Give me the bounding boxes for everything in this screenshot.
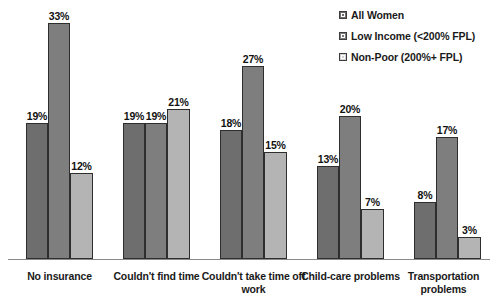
bar-group-bars: 18% 27% 15% — [220, 1, 287, 259]
bar-all-women[interactable] — [414, 202, 436, 259]
bar-non-poor[interactable] — [70, 173, 93, 259]
legend-item-all-women[interactable]: All Women — [339, 6, 494, 23]
bar-value-label: 19% — [27, 110, 47, 122]
bar-group-bars: 19% 33% 12% — [26, 1, 93, 259]
bar-all-women[interactable] — [317, 166, 339, 259]
x-axis-label-transportation-problems: Transportation problems — [391, 270, 496, 296]
bar-slot: 15% — [264, 1, 287, 259]
x-axis-line — [8, 259, 490, 260]
bar-slot: 19% — [123, 1, 145, 259]
legend-swatch-low-income — [339, 32, 347, 40]
chart-legend: All Women Low Income (<200% FPL) Non-Poo… — [339, 6, 494, 69]
bar-low-income[interactable] — [145, 123, 167, 259]
legend-label-low-income: Low Income (<200% FPL) — [351, 30, 475, 42]
bar-non-poor[interactable] — [458, 237, 481, 259]
bar-all-women[interactable] — [220, 130, 242, 259]
x-axis-label-line2: work — [197, 283, 310, 296]
bar-slot: 27% — [242, 1, 264, 259]
legend-swatch-all-women — [339, 11, 347, 19]
bar-value-label: 19% — [146, 110, 166, 122]
bar-group-bars: 19% 19% 21% — [123, 1, 190, 259]
legend-item-low-income[interactable]: Low Income (<200% FPL) — [339, 27, 494, 44]
bar-non-poor[interactable] — [264, 152, 287, 259]
bar-low-income[interactable] — [436, 137, 458, 259]
bar-value-label: 8% — [418, 189, 433, 201]
legend-label-non-poor: Non-Poor (200%+ FPL) — [351, 51, 462, 63]
bar-value-label: 13% — [318, 153, 338, 165]
legend-item-non-poor[interactable]: Non-Poor (200%+ FPL) — [339, 48, 494, 65]
bar-low-income[interactable] — [339, 116, 361, 259]
bar-value-label: 17% — [437, 124, 457, 136]
bar-non-poor[interactable] — [361, 209, 384, 259]
bar-value-label: 15% — [265, 139, 285, 151]
bar-slot: 13% — [317, 1, 339, 259]
bar-low-income[interactable] — [242, 66, 264, 259]
bar-value-label: 27% — [243, 53, 263, 65]
bar-value-label: 19% — [124, 110, 144, 122]
bar-value-label: 12% — [71, 160, 91, 172]
bar-slot: 21% — [167, 1, 190, 259]
bar-value-label: 21% — [168, 96, 188, 108]
bar-value-label: 18% — [221, 117, 241, 129]
bar-slot: 19% — [26, 1, 48, 259]
legend-swatch-non-poor — [339, 53, 347, 61]
legend-label-all-women: All Women — [351, 9, 404, 21]
bar-non-poor[interactable] — [167, 109, 190, 259]
bar-slot: 33% — [48, 1, 70, 259]
bar-value-label: 20% — [340, 103, 360, 115]
bar-slot: 12% — [70, 1, 93, 259]
x-axis-label-line2: problems — [391, 283, 496, 296]
bar-all-women[interactable] — [123, 123, 145, 259]
bar-low-income[interactable] — [48, 23, 70, 259]
bar-slot: 19% — [145, 1, 167, 259]
bar-value-label: 3% — [462, 224, 477, 236]
bar-slot: 18% — [220, 1, 242, 259]
bar-chart: 19% 33% 12% 19% — [0, 0, 496, 306]
bar-value-label: 7% — [365, 196, 380, 208]
x-axis-label-line1: Transportation — [391, 270, 496, 283]
bar-all-women[interactable] — [26, 123, 48, 259]
bar-value-label: 33% — [49, 10, 69, 22]
